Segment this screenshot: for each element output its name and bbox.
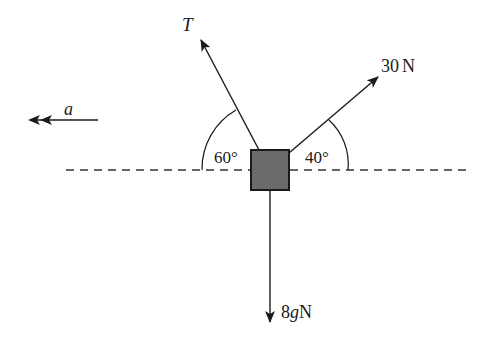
angle-arc-40 xyxy=(329,120,348,170)
tension-label: T xyxy=(182,14,194,35)
tension-force: T 60° xyxy=(182,14,259,170)
applied-force-arrow xyxy=(289,77,378,153)
block xyxy=(251,150,289,190)
weight-force: 8gN xyxy=(270,190,312,322)
angle-label-40: 40° xyxy=(305,148,329,167)
applied-force: 30N 40° xyxy=(289,56,415,170)
angle-label-60: 60° xyxy=(214,148,238,167)
weight-label: 8gN xyxy=(281,302,312,322)
acceleration-label: a xyxy=(64,99,73,119)
acceleration-arrow: a xyxy=(28,99,98,125)
tension-arrow xyxy=(201,40,259,150)
applied-force-label: 30N xyxy=(381,56,415,76)
free-body-diagram: a T 60° 30N 40° 8gN xyxy=(0,0,496,342)
